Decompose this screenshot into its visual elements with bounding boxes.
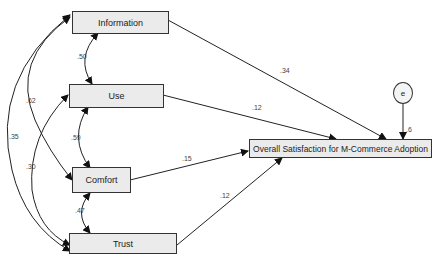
path-trust-outcome	[177, 158, 282, 245]
node-use: Use	[69, 84, 164, 108]
node-comfort: Comfort	[72, 167, 131, 193]
label-cov-use-trust: .30	[26, 163, 36, 170]
label-path-error-outcome: .6	[406, 126, 412, 133]
path-use-outcome	[163, 95, 336, 139]
label-path-information-outcome: .34	[280, 67, 290, 74]
label-path-comfort-outcome: .15	[182, 155, 192, 162]
label-cov-comfort-trust: .47	[75, 207, 85, 214]
label-cov-information-comfort: .62	[26, 97, 36, 104]
label-path-use-outcome: .12	[252, 104, 262, 111]
error-term-e: e	[393, 82, 413, 104]
node-overall-satisfaction: Overall Satisfaction for M-Commerce Adop…	[249, 139, 432, 158]
node-trust: Trust	[69, 233, 177, 254]
label-cov-use-comfort: .59	[71, 134, 81, 141]
node-information: Information	[72, 11, 169, 34]
label-cov-information-use: .50	[77, 53, 87, 60]
path-information-outcome	[168, 20, 386, 139]
path-diagram-canvas	[0, 0, 440, 261]
label-cov-information-trust: .35	[9, 133, 19, 140]
label-path-trust-outcome: .12	[220, 192, 230, 199]
